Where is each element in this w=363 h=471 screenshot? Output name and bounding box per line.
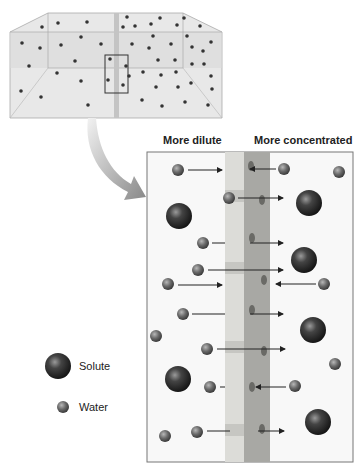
legend-solute-icon	[45, 353, 71, 379]
zoomed-panel	[147, 152, 353, 462]
legend-water-icon	[57, 401, 69, 413]
osmosis-diagram	[0, 0, 363, 471]
box-membrane	[114, 13, 119, 118]
label-more-concentrated: More concentrated	[254, 134, 352, 146]
container-box	[10, 13, 222, 118]
legend-water-label: Water	[79, 401, 108, 413]
legend-solute-label: Solute	[79, 360, 110, 372]
label-more-dilute: More dilute	[163, 134, 222, 146]
curved-arrow-icon	[87, 118, 146, 200]
